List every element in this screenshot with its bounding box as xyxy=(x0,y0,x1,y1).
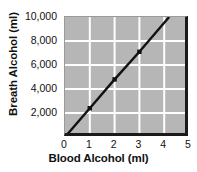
data-point-marker xyxy=(65,135,67,136)
plot-area xyxy=(64,16,188,136)
data-point-marker xyxy=(112,77,116,81)
data-point-marker xyxy=(137,50,141,54)
x-tick-label: 2 xyxy=(111,138,117,150)
y-tick-label: 8,000 xyxy=(31,34,57,46)
x-tick-label: 1 xyxy=(86,138,92,150)
data-point-marker xyxy=(88,106,92,110)
gridlines xyxy=(65,17,188,136)
x-tick-label: 3 xyxy=(135,138,141,150)
y-tick-label: 10,000 xyxy=(25,10,57,22)
x-tick-label: 5 xyxy=(185,138,191,150)
x-axis-title: Blood Alcohol (ml) xyxy=(0,152,197,164)
x-tick-label: 4 xyxy=(160,138,166,150)
x-tick-label: 0 xyxy=(61,138,67,150)
y-tick-label: 4,000 xyxy=(31,82,57,94)
chart-figure: Breath Alcohol (ml) 2,0004,0006,0008,000… xyxy=(0,0,197,172)
y-axis-tick-labels: 2,0004,0006,0008,00010,000 xyxy=(0,16,60,136)
x-axis-tick-labels: 012345 xyxy=(64,138,188,152)
y-tick-label: 6,000 xyxy=(31,58,57,70)
series-line xyxy=(65,17,169,136)
data-line xyxy=(65,17,169,136)
chart-canvas xyxy=(65,17,188,136)
y-tick-label: 2,000 xyxy=(31,106,57,118)
